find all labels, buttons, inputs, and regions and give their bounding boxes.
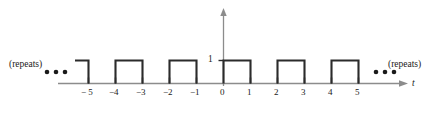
amplitude-label: 1 bbox=[208, 55, 213, 65]
pulse-segment bbox=[170, 61, 197, 84]
x-tick-label: 1 bbox=[247, 88, 252, 97]
pulse-segment bbox=[116, 61, 143, 84]
x-axis-arrowhead bbox=[399, 80, 408, 86]
pulse-segment bbox=[224, 61, 251, 84]
repeats-label-left: (repeats) bbox=[9, 60, 42, 70]
x-tick-label: 3 bbox=[301, 88, 306, 97]
pulse-segment-left-clipped bbox=[75, 61, 89, 84]
x-tick-label: 2 bbox=[274, 88, 279, 97]
pulse-segment bbox=[278, 61, 305, 84]
x-tick-label: −2 bbox=[163, 88, 173, 97]
x-tick-label: 5 bbox=[355, 88, 360, 97]
ellipsis-dots-left bbox=[45, 70, 68, 75]
ellipsis-dots-right bbox=[374, 70, 397, 75]
x-tick-label: 4 bbox=[328, 88, 333, 97]
pulse-segment bbox=[332, 61, 359, 84]
x-tick-label: −1 bbox=[190, 88, 200, 97]
repeats-label-right: (repeats) bbox=[388, 60, 421, 70]
plot-canvas bbox=[0, 0, 440, 115]
y-axis-arrowhead bbox=[220, 8, 226, 16]
x-tick-label: −3 bbox=[136, 88, 146, 97]
x-tick-label: 0 bbox=[220, 88, 225, 97]
x-axis-label: t bbox=[412, 79, 415, 89]
square-wave-figure: 1 t (repeats) (repeats) − 5 −4 −3 −2 −1 … bbox=[0, 0, 440, 115]
x-tick-label: −4 bbox=[109, 88, 119, 97]
waveform-trace bbox=[75, 61, 359, 84]
x-tick-label: − 5 bbox=[81, 88, 93, 97]
